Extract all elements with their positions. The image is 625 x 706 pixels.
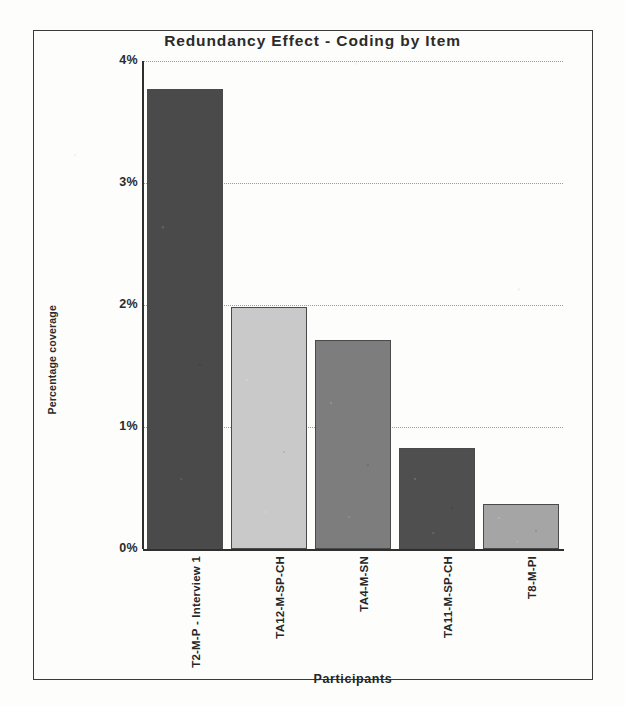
y-axis-tick-labels: 4%3%2%1%0% bbox=[88, 0, 138, 706]
bar-fill bbox=[232, 308, 306, 548]
y-axis-tick-label: 3% bbox=[92, 175, 138, 189]
bar-fill bbox=[148, 90, 222, 548]
x-axis-tick-label: TA12-M-SP-CH bbox=[274, 556, 286, 639]
bar[interactable] bbox=[231, 307, 307, 549]
y-axis-tick-label: 0% bbox=[92, 541, 138, 555]
y-axis-tick-label: 4% bbox=[92, 53, 138, 67]
bar-fill bbox=[400, 449, 474, 548]
x-axis-tick-label: TA11-M-SP-CH bbox=[442, 556, 454, 638]
x-axis-line bbox=[143, 549, 564, 551]
x-axis-tick-label: T8-M-PI bbox=[526, 556, 538, 599]
bar[interactable] bbox=[147, 89, 223, 549]
bar-fill bbox=[484, 505, 558, 548]
x-axis-tick-label: T2-M-P - Interview 1 bbox=[190, 556, 202, 668]
y-axis-title: Percentage coverage bbox=[46, 305, 58, 414]
y-axis-line bbox=[142, 61, 144, 549]
bar-fill bbox=[316, 341, 390, 548]
bar[interactable] bbox=[399, 448, 475, 549]
y-axis-tick-label: 2% bbox=[92, 297, 138, 311]
bar[interactable] bbox=[315, 340, 391, 549]
bar[interactable] bbox=[483, 504, 559, 549]
x-axis-tick-label: TA4-M-SN bbox=[358, 556, 370, 612]
plot-area bbox=[143, 61, 563, 549]
x-axis-title: Participants bbox=[143, 672, 563, 686]
y-axis-tick-label: 1% bbox=[92, 419, 138, 433]
